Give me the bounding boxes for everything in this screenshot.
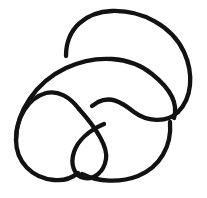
knot-diagram-figure: Knot diagram [0, 0, 207, 198]
knot-canvas [0, 0, 207, 198]
